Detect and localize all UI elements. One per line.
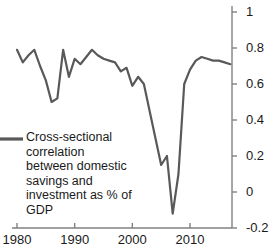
x-tick-2000: 2000 [112,233,152,246]
legend-text: Cross-sectional correlation between dome… [26,130,154,218]
y-tick-0.6: 0.6 [246,77,264,90]
legend-line-1: Cross-sectional [26,130,154,145]
y-tick-0: 0 [246,185,253,198]
legend-line-6: GDP [26,203,154,218]
y-tick-0.2: 0.2 [246,149,264,162]
y-tick-0.4: 0.4 [246,113,264,126]
legend-line-4: savings and [26,174,154,189]
legend-line-3: between domestic [26,159,154,174]
chart-container: 10.80.60.40.20-0.2 1980199020002010 Cros… [0,0,276,252]
legend-line-2: correlation [26,145,154,160]
y-tick-0.8: 0.8 [246,41,264,54]
y-tick--0.2: -0.2 [246,221,268,234]
x-tick-1980: 1980 [0,233,37,246]
x-tick-2010: 2010 [170,233,210,246]
legend-line-5: investment as % of [26,188,154,203]
y-tick-1: 1 [246,5,253,18]
x-tick-1990: 1990 [55,233,95,246]
